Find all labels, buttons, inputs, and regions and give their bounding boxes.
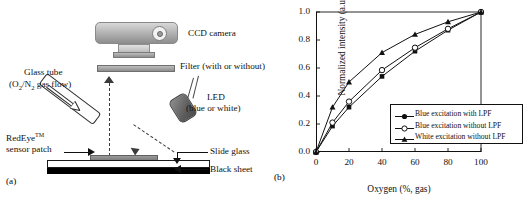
data-point [330,120,335,125]
data-point [330,104,336,109]
chart-legend: Blue excitation with LPF Blue excitation… [390,104,523,144]
legend-marker-filled-triangle-icon [394,131,415,142]
leader-line-black-sheet [180,169,208,170]
leader-line-sensor-patch [64,152,90,153]
leader-arrowhead-slide-glass [173,158,181,164]
slide-glass-icon [47,160,210,168]
legend-marker-filled-circle-icon [394,108,415,119]
legend-item-0: Blue excitation with LPF [394,108,519,120]
label-redeye-line1: RedEyeTM [6,132,44,143]
y-tick-label: 0.8 [286,34,310,44]
x-tick-label: 80 [436,157,460,167]
panel-a-tag: (a) [6,176,16,186]
optical-filter-icon [97,65,175,72]
y-tick-label: 0.0 [286,146,310,156]
legend-label-0: Blue excitation with LPF [415,109,492,118]
panel-b-chart: Normalized intensity (a.u.) Oxygen (%, g… [268,0,524,199]
y-tick-label: 0.4 [286,90,310,100]
data-point [379,67,384,72]
label-glass-tube-line2: (O2/N2 gas flow) [9,79,71,91]
y-tick-label: 0.6 [286,62,310,72]
label-slide-glass: Slide glass [210,146,250,156]
y-tick-label: 1.0 [286,6,310,16]
figure-root: CCD camera Filter (with or without) LED … [0,0,524,199]
label-led-line1: LED [207,92,225,102]
legend-marker-open-circle-icon [394,120,415,131]
leader-line-slide-glass [178,152,208,153]
legend-item-2: White excitation without LPF [394,131,519,143]
x-tick-label: 60 [403,157,427,167]
x-tick-label: 100 [469,157,493,167]
label-ccd-camera: CCD camera [188,28,236,38]
leader-arrowhead-black-sheet [174,165,181,173]
legend-label-2: White excitation without LPF [415,132,505,141]
x-tick-label: 0 [304,157,328,167]
camera-lens-aperture-icon [157,31,163,37]
label-redeye-line2: sensor patch [6,144,52,154]
data-point [379,50,385,55]
data-point [347,105,352,110]
data-point [412,45,417,50]
x-axis-title: Oxygen (%, gas) [334,184,464,194]
excitation-path-arrowhead-icon [128,144,139,155]
y-axis-title: Normalized intensity (a.u.) [337,0,347,105]
x-tick-label: 40 [370,157,394,167]
emission-path-arrow-icon [109,78,112,156]
x-tick-label: 20 [337,157,361,167]
label-led-line2: (blue or white) [186,103,241,113]
panel-b-tag: (b) [274,172,285,182]
panel-a-schematic: CCD camera Filter (with or without) LED … [0,0,268,199]
data-point [380,74,385,79]
data-point [445,26,450,31]
label-black-sheet: Black sheet [210,164,253,174]
y-tick-label: 0.2 [286,118,310,128]
legend-item-1: Blue excitation without LPF [394,120,519,132]
camera-mount [113,52,155,58]
label-filter: Filter (with or without) [180,61,265,71]
label-glass-tube-line1: Glass tube [24,67,63,77]
legend-label-1: Blue excitation without LPF [415,121,501,130]
data-point [346,99,351,104]
chart-plot-frame: Normalized intensity (a.u.) Oxygen (%, g… [316,12,481,152]
